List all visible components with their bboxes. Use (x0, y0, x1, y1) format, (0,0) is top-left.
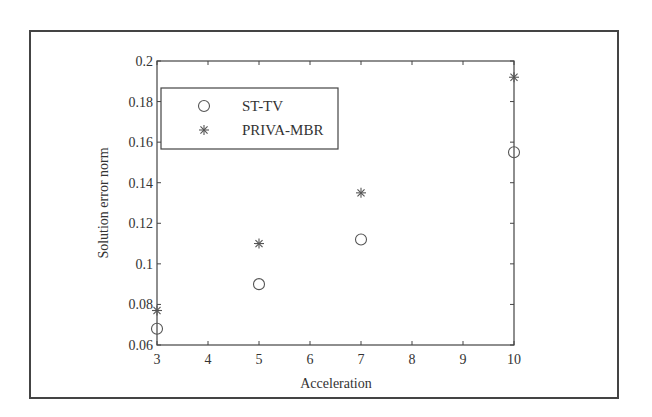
y-tick-label: 0.18 (129, 95, 154, 110)
circle-marker-icon (254, 279, 265, 290)
legend: ST-TVPRIVA-MBR (161, 88, 338, 149)
y-tick-label: 0.14 (129, 176, 154, 191)
x-tick-label: 9 (460, 352, 467, 367)
legend-label: PRIVA-MBR (242, 122, 323, 138)
y-axis-label: Solution error norm (96, 147, 111, 258)
x-tick-label: 4 (205, 352, 212, 367)
y-tick-label: 0.1 (136, 257, 154, 272)
asterisk-marker-icon (356, 188, 366, 198)
y-tick-label: 0.2 (136, 54, 154, 69)
y-tick-label: 0.16 (129, 135, 154, 150)
scatter-chart: 0.060.080.10.120.140.160.180.2 345678910… (0, 0, 652, 417)
x-tick-label: 5 (256, 352, 263, 367)
asterisk-marker-icon (152, 306, 162, 316)
x-tick-label: 8 (409, 352, 416, 367)
legend-label: ST-TV (242, 98, 283, 114)
circle-marker-icon (356, 234, 367, 245)
x-tick-label: 7 (358, 352, 365, 367)
y-tick-label: 0.06 (129, 338, 154, 353)
asterisk-marker-icon (199, 125, 209, 135)
asterisk-marker-icon (254, 239, 264, 249)
x-tick-label: 10 (507, 352, 521, 367)
y-tick-label: 0.08 (129, 297, 154, 312)
y-tick-label: 0.12 (129, 216, 154, 231)
x-tick-label: 6 (307, 352, 314, 367)
x-tick-label: 3 (154, 352, 161, 367)
series-st-tv (152, 147, 520, 334)
x-axis-label: Acceleration (300, 376, 372, 391)
asterisk-marker-icon (509, 72, 519, 82)
